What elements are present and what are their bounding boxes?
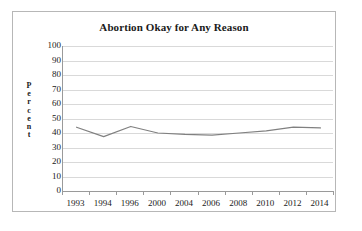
x-axis-tick [225, 191, 226, 195]
x-axis-tick-labels: 1993199419962000200420062008201020122014 [62, 198, 333, 212]
y-axis-tick-labels: 1009080706050403020100 [33, 41, 61, 191]
x-axis-tick [306, 191, 307, 195]
x-axis-tick [333, 191, 334, 195]
y-axis-tick-label: 50 [33, 114, 61, 123]
x-axis-tick [89, 191, 90, 195]
y-axis-tick-label: 60 [33, 99, 61, 108]
plot-area [62, 46, 333, 191]
x-axis-tick [116, 191, 117, 195]
y-axis-tick-label: 90 [33, 56, 61, 65]
chart-title: Abortion Okay for Any Reason [13, 21, 335, 33]
x-axis-tick [198, 191, 199, 195]
x-axis-tick-label: 2004 [175, 198, 193, 209]
x-axis-tick-label: 2012 [283, 198, 301, 209]
x-axis-tick [170, 191, 171, 195]
x-axis-tick [252, 191, 253, 195]
x-axis-tick [279, 191, 280, 195]
y-axis-tick-label: 20 [33, 157, 61, 166]
y-axis-tick-label: 70 [33, 85, 61, 94]
x-axis-tick-label: 2014 [310, 198, 328, 209]
x-axis-tick [62, 191, 63, 195]
x-axis-tick [143, 191, 144, 195]
y-axis-tick-label: 40 [33, 128, 61, 137]
y-axis-tick-label: 0 [33, 186, 61, 195]
y-axis-tick-label: 30 [33, 143, 61, 152]
chart-frame: Abortion Okay for Any Reason P e r c e n… [12, 11, 336, 212]
x-axis-tick-label: 2006 [202, 198, 220, 209]
y-axis-tick-label: 10 [33, 172, 61, 181]
x-axis-tick-label: 2008 [229, 198, 247, 209]
y-axis-tick-label: 100 [33, 41, 61, 50]
x-axis-tick-label: 2010 [256, 198, 274, 209]
x-axis-tick-label: 2000 [148, 198, 166, 209]
x-axis-ticks [62, 191, 333, 196]
series-polyline [77, 126, 321, 136]
data-series-line [63, 46, 334, 191]
x-axis-tick-label: 1996 [121, 198, 139, 209]
x-axis-tick-label: 1994 [94, 198, 112, 209]
x-axis-tick-label: 1993 [67, 198, 85, 209]
y-axis-tick-label: 80 [33, 70, 61, 79]
